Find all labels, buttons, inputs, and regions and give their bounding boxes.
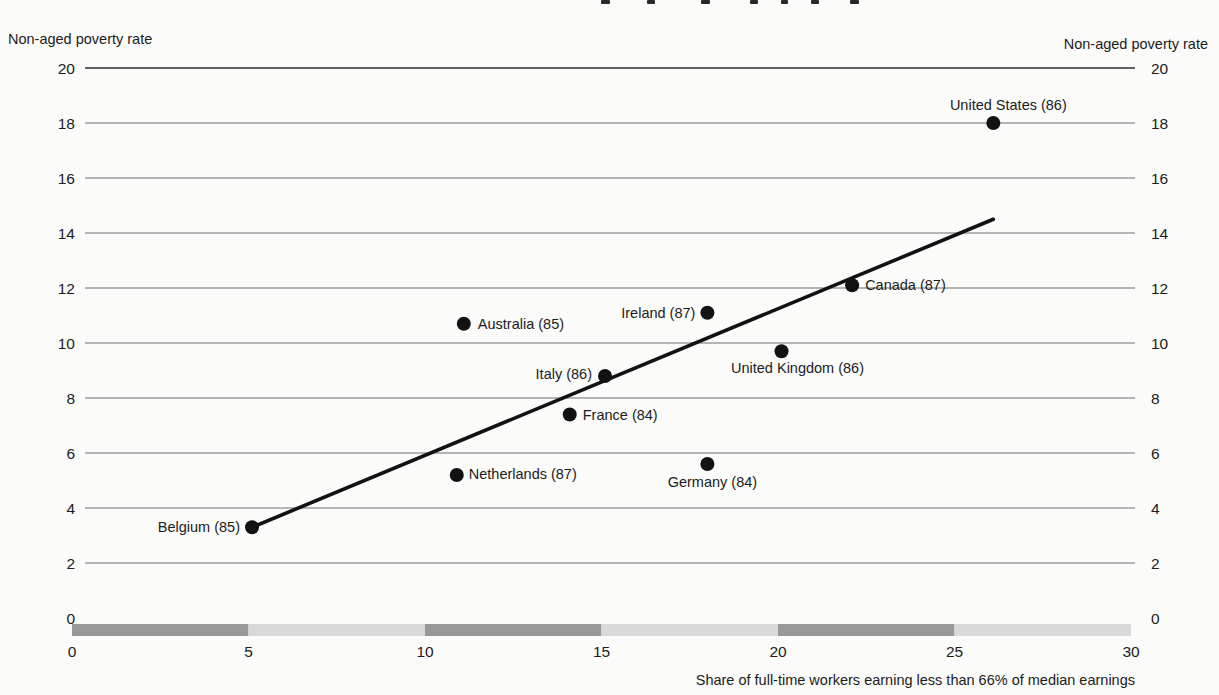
point-dot: [563, 408, 577, 422]
y-tick-label-right: 20: [1151, 60, 1169, 77]
y-tick-label-right: 0: [1151, 610, 1160, 627]
x-tick-label: 20: [769, 643, 787, 660]
x-tick-label: 5: [244, 643, 253, 660]
y-tick-label-left: 0: [66, 610, 75, 627]
y-tick-label-right: 12: [1151, 280, 1168, 297]
y-tick-label-left: 12: [58, 280, 75, 297]
point-dot: [245, 520, 259, 534]
y-tick-label-left: 20: [58, 60, 76, 77]
x-tick-label: 10: [416, 643, 434, 660]
point-label: United States (86): [950, 97, 1067, 113]
trend-line: [252, 219, 993, 527]
y-tick-label-left: 4: [66, 500, 75, 517]
y-tick-label-left: 2: [66, 555, 75, 572]
y-tick-label-left: 18: [58, 115, 75, 132]
point-dot: [845, 278, 859, 292]
y-tick-label-right: 16: [1151, 170, 1168, 187]
point-dot: [457, 317, 471, 331]
point-label: Belgium (85): [158, 519, 240, 535]
point-label: Italy (86): [536, 366, 592, 382]
point-dot: [775, 344, 789, 358]
point-label: Canada (87): [865, 277, 946, 293]
y-tick-label-left: 16: [58, 170, 75, 187]
point-label: Germany (84): [668, 474, 757, 490]
point-label: Australia (85): [478, 316, 564, 332]
y-tick-label-right: 4: [1151, 500, 1160, 517]
point-dot: [700, 306, 714, 320]
point-dot: [598, 369, 612, 383]
x-tick-label: 25: [946, 643, 963, 660]
x-axis-bar-segment-light: [602, 624, 779, 636]
x-tick-label: 0: [68, 643, 77, 660]
y-tick-label-left: 8: [66, 390, 75, 407]
y-tick-label-right: 14: [1151, 225, 1169, 242]
y-tick-label-left: 14: [58, 225, 76, 242]
point-label: United Kingdom (86): [731, 360, 864, 376]
y-tick-label-left: 6: [66, 445, 75, 462]
point-dot: [700, 457, 714, 471]
point-label: Netherlands (87): [469, 466, 577, 482]
x-axis-bar-segment-light: [249, 624, 426, 636]
chart-page: Non-aged poverty rate Non-aged poverty r…: [0, 0, 1219, 695]
x-tick-label: 30: [1122, 643, 1140, 660]
y-tick-label-right: 18: [1151, 115, 1168, 132]
point-label: Ireland (87): [621, 305, 695, 321]
x-axis-bar-segment-dark: [778, 624, 955, 636]
y-tick-label-right: 2: [1151, 555, 1160, 572]
point-dot: [986, 116, 1000, 130]
x-axis-bar-segment-dark: [72, 624, 249, 636]
y-tick-label-right: 10: [1151, 335, 1169, 352]
x-tick-label: 15: [593, 643, 610, 660]
point-dot: [450, 468, 464, 482]
point-label: France (84): [583, 407, 658, 423]
y-tick-label-right: 6: [1151, 445, 1160, 462]
x-axis-title: Share of full-time workers earning less …: [696, 672, 1135, 688]
y-tick-label-left: 10: [58, 335, 76, 352]
y-tick-label-right: 8: [1151, 390, 1160, 407]
plot-area: 0022446688101012121414161618182020051015…: [0, 0, 1219, 695]
x-axis-bar-segment-light: [955, 624, 1132, 636]
x-axis-bar-segment-dark: [425, 624, 602, 636]
